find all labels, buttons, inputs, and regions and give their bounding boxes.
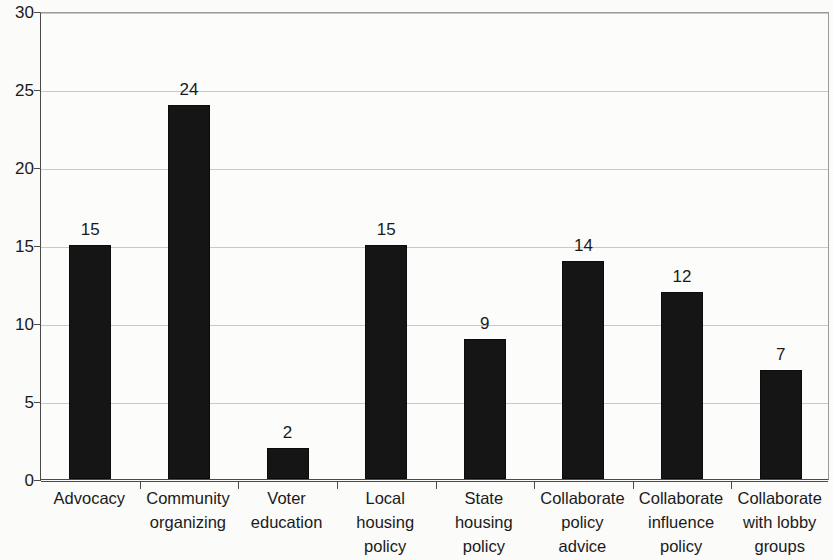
x-axis-category-label: Statehousingpolicy xyxy=(435,486,534,558)
bar xyxy=(168,105,210,479)
y-axis-tick-label: 20 xyxy=(4,160,34,177)
bar-chart: 051015202530 1524215914127 AdvocacyCommu… xyxy=(0,0,833,560)
x-axis-label-line: organizing xyxy=(150,513,226,531)
y-axis-tick-label: 15 xyxy=(4,238,34,255)
x-axis-label-line: housing xyxy=(455,513,513,531)
x-axis-label-line: with lobby xyxy=(743,513,816,531)
x-axis-category-label: Votereducation xyxy=(237,486,336,534)
x-axis-category-label: Localhousingpolicy xyxy=(336,486,435,558)
x-axis-category-label: Collaborateinfluencepolicy xyxy=(632,486,731,558)
bar xyxy=(760,370,802,479)
plot-area: 1524215914127 xyxy=(40,12,829,480)
bar-value-label: 9 xyxy=(480,315,489,332)
x-axis-label-line: policy xyxy=(561,513,603,531)
bar-value-label: 12 xyxy=(673,268,692,285)
x-axis-category-label: Collaboratewith lobbygroups xyxy=(730,486,829,558)
y-axis-tick-label: 25 xyxy=(4,82,34,99)
bar xyxy=(69,245,111,479)
x-axis-label-line: policy xyxy=(463,537,505,555)
y-axis-tick-label: 30 xyxy=(4,4,34,21)
x-axis-label-line: Advocacy xyxy=(54,489,126,507)
x-axis-category-label: Advocacy xyxy=(40,486,139,510)
x-axis-label-line: Collaborate xyxy=(540,489,624,507)
x-axis-label-line: advice xyxy=(559,537,607,555)
x-axis-label-line: policy xyxy=(660,537,702,555)
y-axis-tick-label: 0 xyxy=(4,472,34,489)
x-axis-label-line: policy xyxy=(364,537,406,555)
gridline-10 xyxy=(41,325,828,326)
bar-value-label: 7 xyxy=(776,346,785,363)
gridline-5 xyxy=(41,403,828,404)
x-axis-category-label: Collaboratepolicyadvice xyxy=(533,486,632,558)
bar-value-label: 2 xyxy=(283,424,292,441)
x-axis-label-line: education xyxy=(251,513,323,531)
bar-value-label: 14 xyxy=(574,237,593,254)
gridline-30 xyxy=(41,13,828,14)
y-axis: 051015202530 xyxy=(0,12,34,480)
bar xyxy=(267,448,309,479)
x-axis: AdvocacyCommunityorganizingVotereducatio… xyxy=(40,486,829,560)
bar xyxy=(661,292,703,479)
bar-value-label: 15 xyxy=(377,221,396,238)
gridline-0 xyxy=(41,481,828,482)
bar xyxy=(365,245,407,479)
y-axis-tick-mark xyxy=(34,480,41,481)
x-axis-label-line: Local xyxy=(365,489,404,507)
bar-value-label: 24 xyxy=(179,81,198,98)
gridline-20 xyxy=(41,169,828,170)
x-axis-label-line: Community xyxy=(146,489,229,507)
bar xyxy=(464,339,506,479)
y-axis-tick-label: 10 xyxy=(4,316,34,333)
gridline-25 xyxy=(41,91,828,92)
y-axis-tick-label: 5 xyxy=(4,394,34,411)
x-axis-label-line: housing xyxy=(356,513,414,531)
x-axis-label-line: influence xyxy=(648,513,714,531)
x-axis-label-line: State xyxy=(465,489,504,507)
gridline-15 xyxy=(41,247,828,248)
bar-value-label: 15 xyxy=(81,221,100,238)
bar xyxy=(562,261,604,479)
x-axis-label-line: Collaborate xyxy=(639,489,723,507)
x-axis-label-line: Collaborate xyxy=(737,489,821,507)
x-axis-label-line: groups xyxy=(754,537,804,555)
x-axis-category-label: Communityorganizing xyxy=(139,486,238,534)
x-axis-label-line: Voter xyxy=(267,489,306,507)
